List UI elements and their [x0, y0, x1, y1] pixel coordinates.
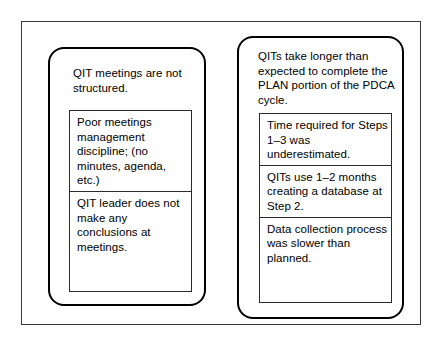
cause-list-qit-meetings: Poor meetings management discipline; (no…	[69, 110, 192, 292]
cause-list-plan-portion: Time required for Steps 1–3 was underest…	[259, 113, 392, 303]
panel-plan-portion: QITs take longer than expected to comple…	[237, 36, 404, 319]
list-item: Time required for Steps 1–3 was underest…	[260, 114, 391, 166]
panel-qit-meetings: QIT meetings are not structured. Poor me…	[48, 47, 206, 306]
list-item: Poor meetings management discipline; (no…	[70, 111, 191, 192]
list-item: QITs use 1–2 months creating a database …	[260, 166, 391, 218]
list-item: Data collection process was slower than …	[260, 218, 391, 269]
diagram-canvas: QIT meetings are not structured. Poor me…	[0, 0, 442, 350]
panel-title-plan-portion: QITs take longer than expected to comple…	[258, 49, 398, 107]
panel-title-qit-meetings: QIT meetings are not structured.	[73, 66, 197, 95]
list-item: QIT leader does not make any conclusions…	[70, 192, 191, 257]
